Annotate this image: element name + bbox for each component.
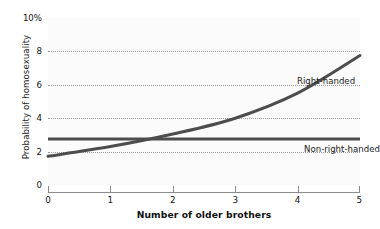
y-axis-title: Probability of homosexuality	[21, 9, 31, 185]
x-tick-label-3: 3	[220, 195, 250, 205]
series-label-right-handed: Right-handed	[297, 76, 355, 86]
x-axis-line	[48, 192, 360, 193]
x-tick-2	[173, 186, 174, 193]
x-tick-label-5: 5	[344, 195, 374, 205]
x-tick-label-2: 2	[158, 195, 188, 205]
x-tick-1	[110, 186, 111, 193]
x-tick-label-1: 1	[95, 195, 125, 205]
x-tick-3	[235, 186, 236, 193]
plot-area: Right-handed Non-right-handed	[48, 18, 360, 185]
series-label-non-right-handed: Non-right-handed	[304, 144, 380, 154]
line-right-handed	[48, 56, 360, 157]
x-tick-label-0: 0	[33, 195, 63, 205]
series-lines	[48, 18, 360, 185]
x-tick-4	[298, 186, 299, 193]
x-tick-5	[359, 186, 360, 193]
x-axis-title: Number of older brothers	[48, 209, 360, 220]
x-tick-0	[48, 186, 49, 193]
x-tick-label-4: 4	[283, 195, 313, 205]
